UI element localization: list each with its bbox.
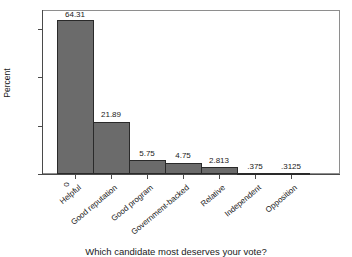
chart-caption: Which candidate most deserves your vote? xyxy=(0,246,352,257)
x-axis-tick-good-program xyxy=(147,175,148,179)
x-axis-tick-relative xyxy=(219,175,220,179)
bar-value-good-reputation: 21.89 xyxy=(81,110,141,119)
y-axis-line xyxy=(42,10,43,174)
x-axis-tick-opposition xyxy=(291,175,292,179)
y-axis-title: Percent xyxy=(2,43,12,123)
x-axis-tick-helpful xyxy=(75,175,76,179)
y-axis-tick-40 xyxy=(38,77,42,78)
y-axis-tick-20 xyxy=(38,126,42,127)
bar-opposition xyxy=(273,173,310,175)
x-axis-tick-independent xyxy=(255,175,256,179)
x-axis-tick-government-backed xyxy=(183,175,184,179)
bar-good-program xyxy=(129,160,166,174)
bar-good-reputation xyxy=(93,122,130,174)
bar-helpful xyxy=(57,20,94,174)
bar-chart-figure: 0 20 40 60 Percent Helpful Good reputati… xyxy=(0,0,352,257)
bar-independent xyxy=(237,173,274,175)
bar-value-helpful: 64.31 xyxy=(45,10,105,19)
bar-value-opposition: .3125 xyxy=(261,162,321,171)
x-axis-tick-good-reputation xyxy=(111,175,112,179)
y-axis-tick-60 xyxy=(38,29,42,30)
